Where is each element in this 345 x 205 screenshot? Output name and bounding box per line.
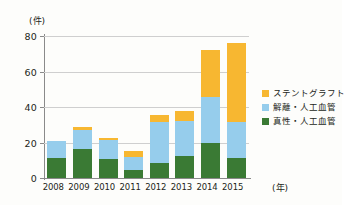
y-axis-tick (40, 143, 44, 144)
bar-segment (227, 158, 246, 178)
bar-segment (227, 122, 246, 158)
bar-2013[interactable] (175, 111, 194, 178)
legend-item[interactable]: 解離・人工血管 (262, 102, 345, 113)
y-axis-unit-label: (件) (29, 14, 45, 27)
bar-segment (99, 140, 118, 160)
bar-2008[interactable] (47, 141, 66, 178)
legend-item[interactable]: 真性・人工血管 (262, 116, 345, 127)
legend-swatch-icon (262, 90, 269, 97)
y-axis-tick (40, 178, 44, 179)
bar-segment (175, 156, 194, 178)
bar-segment (47, 158, 66, 178)
bar-segment (201, 143, 220, 178)
y-axis-tick-label: 40 (25, 102, 38, 113)
x-axis-tick-label: 2014 (194, 182, 220, 192)
bar-2015[interactable] (227, 43, 246, 178)
x-axis-tick-label: 2011 (117, 182, 143, 192)
bar-segment (227, 43, 246, 122)
bar-2014[interactable] (201, 50, 220, 178)
bar-segment (124, 170, 143, 178)
x-axis-unit-label: (年) (272, 181, 288, 194)
plot-area: 020406080 (44, 36, 249, 178)
legend-label: 真性・人工血管 (273, 116, 336, 127)
y-axis-tick-label: 60 (25, 66, 38, 77)
bar-segment (150, 122, 169, 163)
bar-segment (201, 97, 220, 143)
bar-2012[interactable] (150, 115, 169, 178)
bar-segment (175, 111, 194, 121)
gridline (44, 36, 249, 37)
legend-item[interactable]: ステントグラフト (262, 88, 345, 99)
bar-segment (150, 115, 169, 122)
bar-segment (73, 149, 92, 178)
bar-segment (47, 141, 66, 158)
legend-swatch-icon (262, 104, 269, 111)
bar-segment (124, 157, 143, 170)
bar-2009[interactable] (73, 127, 92, 178)
x-axis-tick-label: 2009 (66, 182, 92, 192)
y-axis-tick (40, 36, 44, 37)
bar-2011[interactable] (124, 151, 143, 178)
x-axis-tick-label: 2010 (92, 182, 118, 192)
legend-label: ステントグラフト (273, 88, 345, 99)
x-axis-tick-label: 2015 (220, 182, 246, 192)
x-axis-tick-label: 2013 (168, 182, 194, 192)
chart-legend: ステントグラフト解離・人工血管真性・人工血管 (262, 88, 345, 127)
y-axis-tick-label: 0 (31, 173, 37, 184)
legend-label: 解離・人工血管 (273, 102, 336, 113)
bar-segment (150, 163, 169, 178)
y-axis-tick (40, 107, 44, 108)
legend-swatch-icon (262, 118, 269, 125)
y-axis-tick (40, 72, 44, 73)
x-axis-line (43, 178, 251, 179)
y-axis-tick-label: 20 (25, 137, 38, 148)
y-axis-tick-label: 80 (25, 31, 38, 42)
bar-2010[interactable] (99, 138, 118, 178)
bar-segment (73, 130, 92, 149)
bar-segment (175, 121, 194, 156)
x-axis-tick-label: 2012 (143, 182, 169, 192)
bar-segment (99, 159, 118, 178)
x-axis-tick-label: 2008 (40, 182, 66, 192)
bar-segment (201, 50, 220, 97)
